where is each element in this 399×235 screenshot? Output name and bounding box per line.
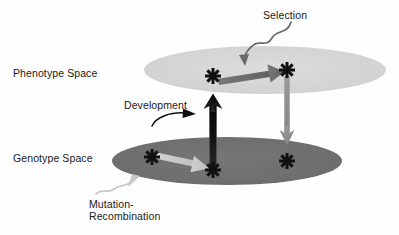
- genotype-space-label: Genotype Space: [13, 152, 93, 164]
- mutation-recombination-pointer: [96, 174, 140, 194]
- diagram-graphics: [0, 0, 399, 235]
- mutation-recombination-label: Mutation-Recombination: [89, 198, 160, 222]
- star-genotype-point-descendant: [279, 153, 295, 169]
- phenotype-space-label: Phenotype Space: [13, 67, 97, 79]
- descent-arrow: [284, 76, 289, 134]
- star-genotype-point-mutant: [205, 162, 221, 178]
- mutation-recombination-label-line1: Mutation-: [89, 198, 160, 210]
- star-genotype-point-parent: [144, 149, 160, 165]
- development-label: Development: [124, 99, 187, 111]
- star-phenotype-point-selected: [279, 62, 295, 78]
- development-pointer: [152, 109, 196, 127]
- phenotype-plane: [144, 46, 386, 94]
- selection-label: Selection: [263, 9, 307, 21]
- mutation-recombination-label-line2: Recombination: [89, 210, 160, 222]
- star-phenotype-point-start: [205, 68, 221, 84]
- diagram-canvas: Phenotype Space Genotype Space Selection…: [0, 0, 399, 235]
